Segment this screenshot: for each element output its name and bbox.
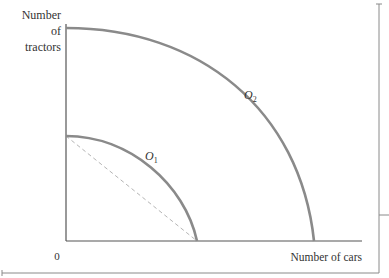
y-axis-label-line1: Number xyxy=(22,8,61,22)
curve-o1-label: O1 xyxy=(145,149,158,165)
x-axis-label: Number of cars xyxy=(290,251,362,263)
curve-o1-name: O xyxy=(145,149,154,163)
ppf-diagram: Number of tractors 0 Number of cars O1 O… xyxy=(0,0,389,278)
origin-label: 0 xyxy=(54,250,60,262)
curve-o2-sub: 2 xyxy=(253,95,257,104)
curve-o2 xyxy=(66,28,314,241)
y-axis-label-line3: tractors xyxy=(25,40,61,54)
y-axis-label-line2: of xyxy=(51,24,61,38)
curve-o1-sub: 1 xyxy=(154,156,158,165)
curve-o2-name: O xyxy=(244,88,253,102)
curve-o2-label: O2 xyxy=(244,88,257,104)
dashed-line xyxy=(66,136,197,241)
